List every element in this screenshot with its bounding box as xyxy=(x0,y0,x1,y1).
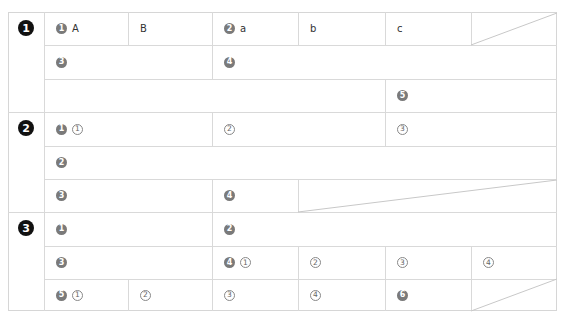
cell: 11 xyxy=(44,112,212,146)
cell: 41 xyxy=(212,246,298,279)
cell: 1 xyxy=(44,212,212,246)
cell: 1A xyxy=(44,12,128,45)
cell: 6 xyxy=(385,279,471,311)
cell: 3 xyxy=(212,279,298,311)
cell: 4 xyxy=(471,246,557,279)
cell: c xyxy=(385,12,471,45)
cell: 2a xyxy=(212,12,298,45)
cell: 4 xyxy=(212,45,557,79)
section-1-label: 1 xyxy=(8,20,44,36)
cell: 2 xyxy=(128,279,212,311)
cell: 5 xyxy=(385,79,557,112)
cell: 2 xyxy=(212,212,557,246)
cell: 3 xyxy=(44,45,212,79)
cell: 3 xyxy=(385,246,471,279)
cell: 4 xyxy=(298,279,385,311)
cell: B xyxy=(128,12,212,45)
cell: 2 xyxy=(212,112,385,146)
section-2-label: 2 xyxy=(8,120,44,136)
cell: 3 xyxy=(44,246,212,279)
cell: b xyxy=(298,12,385,45)
cell: 3 xyxy=(385,112,557,146)
cell: 2 xyxy=(44,146,557,179)
cell: 51 xyxy=(44,279,128,311)
cell: 3 xyxy=(44,179,212,212)
section-3-label: 3 xyxy=(8,220,44,236)
cell: 2 xyxy=(298,246,385,279)
cell: 4 xyxy=(212,179,298,212)
